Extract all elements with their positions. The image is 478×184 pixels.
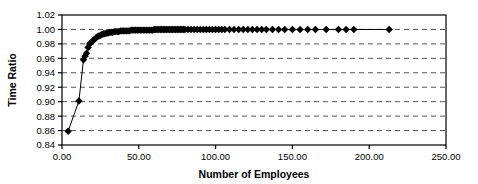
data-point-marker bbox=[312, 26, 319, 33]
x-axis-title: Number of Employees bbox=[199, 168, 310, 180]
y-tick-label: 0.98 bbox=[37, 38, 56, 49]
y-axis-title: Time Ratio bbox=[6, 53, 18, 106]
y-tick-label: 0.96 bbox=[37, 53, 56, 64]
gridlines bbox=[62, 29, 446, 130]
x-tick-label: 0.00 bbox=[53, 151, 72, 162]
y-tick-label: 0.86 bbox=[37, 125, 56, 136]
data-point-marker bbox=[296, 26, 303, 33]
data-series bbox=[64, 26, 392, 135]
x-tick-label: 250.00 bbox=[431, 151, 460, 162]
data-point-marker bbox=[342, 26, 349, 33]
data-point-marker bbox=[335, 26, 342, 33]
chart-figure: 0.0050.00100.00150.00200.00250.00 0.840.… bbox=[0, 0, 478, 184]
y-tick-label: 0.84 bbox=[37, 139, 56, 150]
y-tick-label: 0.94 bbox=[37, 67, 56, 78]
y-tick-label: 0.90 bbox=[37, 96, 56, 107]
y-axis-ticks: 0.840.860.880.900.920.940.960.981.001.02 bbox=[37, 9, 63, 150]
y-tick-label: 0.88 bbox=[37, 111, 56, 122]
data-point-marker bbox=[75, 97, 82, 104]
x-axis-ticks: 0.0050.00100.00150.00200.00250.00 bbox=[53, 145, 461, 162]
x-tick-label: 100.00 bbox=[201, 151, 230, 162]
y-tick-label: 0.92 bbox=[37, 82, 56, 93]
data-point-marker bbox=[64, 128, 71, 135]
x-tick-label: 150.00 bbox=[278, 151, 307, 162]
x-tick-label: 200.00 bbox=[355, 151, 384, 162]
data-point-marker bbox=[350, 26, 357, 33]
y-tick-label: 1.02 bbox=[37, 9, 56, 20]
data-point-marker bbox=[322, 26, 329, 33]
chart-canvas: 0.0050.00100.00150.00200.00250.00 0.840.… bbox=[0, 0, 478, 184]
data-point-marker bbox=[385, 26, 392, 33]
data-point-marker bbox=[281, 26, 288, 33]
data-point-marker bbox=[289, 26, 296, 33]
data-point-marker bbox=[304, 26, 311, 33]
y-tick-label: 1.00 bbox=[37, 24, 56, 35]
x-tick-label: 50.00 bbox=[127, 151, 151, 162]
